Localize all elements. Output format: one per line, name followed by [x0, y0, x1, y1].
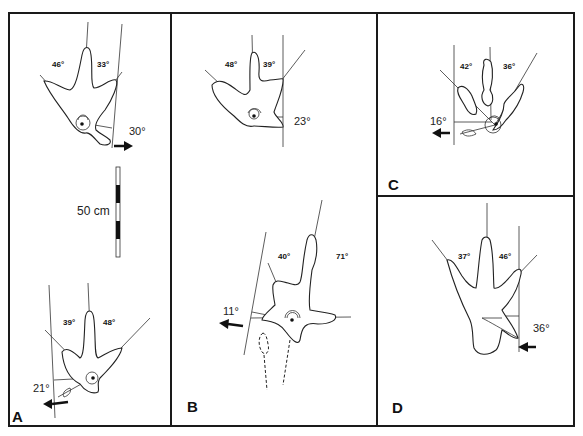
panel-label: C	[388, 176, 399, 193]
rotation-angle-label: 11°	[223, 305, 239, 317]
angle-label: 46°	[499, 252, 511, 261]
track-b-upper: 48° 39° 23°	[205, 35, 311, 147]
rotation-angle-label: 23°	[294, 115, 311, 127]
arrow-left-icon	[219, 319, 229, 329]
panel-a: 46° 33° 30° 50 cm 39° 48° 2	[12, 22, 150, 425]
angle-label: 48°	[225, 60, 237, 69]
arrowhead	[124, 141, 133, 151]
angle-label: 33°	[97, 60, 109, 69]
scale-label: 50 cm	[77, 204, 110, 218]
track-b-lower: 40° 71° 11°	[219, 200, 351, 390]
angle-label: 42°	[460, 62, 472, 71]
arrow-left-icon	[432, 128, 441, 138]
rotation-angle-label: 16°	[430, 115, 447, 127]
track-a-upper: 46° 33° 30°	[40, 22, 146, 151]
arrow-left-icon	[43, 399, 52, 409]
rotation-angle-label: 21°	[33, 382, 50, 394]
panel-b: 48° 39° 23° 40° 71° 11° B	[187, 35, 351, 415]
angle-label: 46°	[52, 60, 64, 69]
rotation-angle-label: 36°	[533, 322, 550, 334]
footprint-figure: 46° 33° 30° 50 cm 39° 48° 2	[0, 0, 583, 436]
scale-bar: 50 cm	[77, 167, 120, 257]
angle-label: 37°	[458, 252, 470, 261]
arrow-left-icon	[518, 342, 528, 352]
panel-c: 42° 36° 16° C	[388, 45, 537, 193]
angle-label: 40°	[278, 252, 290, 261]
rotation-angle-label: 30°	[129, 125, 146, 137]
angle-label: 36°	[503, 62, 515, 71]
angle-label: 71°	[336, 252, 348, 261]
panel-label: D	[392, 399, 403, 416]
panel-label: B	[187, 398, 198, 415]
panel-d: 37° 46° 36° D	[392, 203, 550, 416]
panel-label: A	[12, 408, 23, 425]
angle-label: 39°	[263, 60, 275, 69]
track-a-lower: 39° 48° 21°	[33, 283, 150, 418]
angle-label: 48°	[103, 318, 115, 327]
angle-label: 39°	[63, 318, 75, 327]
